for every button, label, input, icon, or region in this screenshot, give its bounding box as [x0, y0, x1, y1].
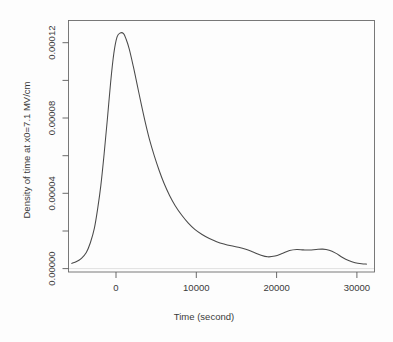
- chart-figure: 0.00000 0.00004 0.00008 0.00012 0 10000 …: [0, 0, 393, 342]
- x-tick-label-0: 0: [113, 282, 118, 293]
- density-line-chart: 0.00000 0.00004 0.00008 0.00012 0 10000 …: [0, 0, 393, 342]
- x-tick-label-2: 20000: [263, 282, 289, 293]
- density-curve: [72, 33, 367, 264]
- plot-frame: [69, 21, 375, 273]
- x-tick-label-3: 30000: [344, 282, 370, 293]
- x-axis-title: Time (second): [174, 311, 234, 322]
- y-axis-title: Density of time at x0=7.1 MV/cm: [21, 81, 32, 218]
- y-tick-label-1: 0.00004: [46, 176, 57, 210]
- x-tick-label-1: 10000: [183, 282, 209, 293]
- y-tick-label-2: 0.00008: [46, 101, 57, 135]
- y-axis-ticks: [63, 43, 69, 269]
- y-tick-label-0: 0.00000: [46, 251, 57, 285]
- x-axis-ticks: [116, 272, 357, 278]
- y-tick-label-3: 0.00012: [46, 26, 57, 60]
